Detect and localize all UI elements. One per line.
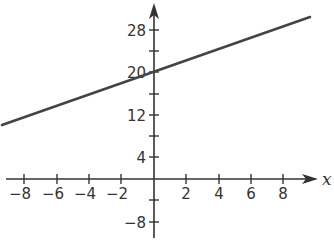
x-tick-label: −8 (9, 185, 31, 203)
x-tick-label: 6 (246, 185, 256, 203)
y-tick-label: −8 (124, 214, 146, 232)
y-tick-label: 12 (127, 107, 146, 125)
x-tick-label: −2 (106, 185, 128, 203)
x-tick-label: −4 (74, 185, 96, 203)
x-tick-label: 8 (278, 185, 288, 203)
data-line (2, 17, 310, 125)
x-tick-labels: −8 −6 −4 −2 2 4 6 8 (9, 185, 288, 203)
y-tick-label: 28 (127, 22, 146, 40)
y-tick-label: 4 (136, 149, 146, 167)
x-tick-label: −6 (42, 185, 64, 203)
x-tick-label: 4 (214, 185, 224, 203)
x-axis-label: x (322, 169, 332, 189)
chart: −8 −6 −4 −2 2 4 6 8 28 20 12 4 −8 x (0, 0, 334, 241)
x-tick-label: 2 (181, 185, 191, 203)
